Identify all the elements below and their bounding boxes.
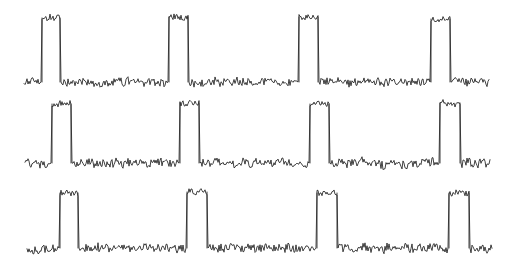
- trace-canvas: [0, 0, 508, 278]
- figure-background: [0, 0, 508, 278]
- signal-trace-figure: [0, 0, 508, 278]
